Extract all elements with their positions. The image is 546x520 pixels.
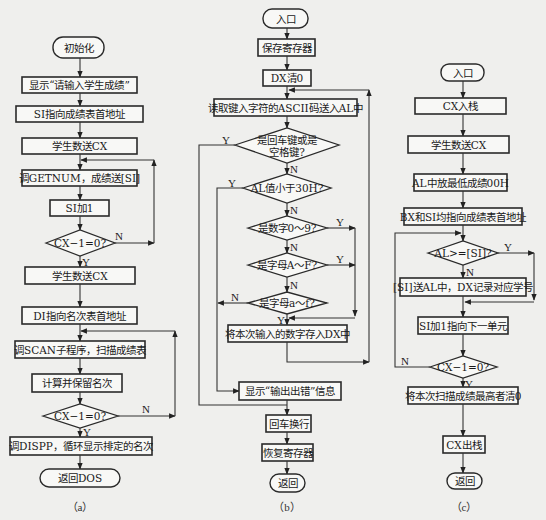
caption-c: （c） (451, 501, 478, 513)
terminal-entry: 入口 (441, 64, 484, 81)
node-text: AL值小于30H? (250, 182, 324, 194)
process-compute-rank: 计算并保留名次 (32, 374, 122, 392)
node-text: CX−1=0? (54, 237, 106, 249)
node-text: DX清0 (271, 72, 304, 84)
branch-label-no: N (115, 230, 123, 242)
node-text: 是回车键或是 (257, 134, 318, 146)
node-text: 读取键入字符的ASCII码送入AL中 (208, 102, 364, 114)
process-show-error: 显示“输出出错”信息 (239, 382, 341, 400)
branch-label-yes: Y (336, 216, 344, 228)
branch-label-no: N (231, 291, 239, 303)
node-text: 是字母a～f? (259, 297, 315, 309)
terminal-return: 返回 (447, 473, 482, 489)
node-text: 显示“请输入学生成绩” (29, 79, 130, 91)
node-text: 返回 (278, 477, 298, 489)
terminal-start: 初始化 (53, 37, 104, 58)
branch-label-no: N (290, 204, 298, 216)
process-count-to-cx-2: 学生数送CX (25, 267, 135, 284)
branch-label-no: N (290, 163, 298, 175)
process-pop-cx: CX出栈 (443, 436, 485, 453)
node-text: 计算并保留名次 (42, 377, 113, 389)
node-text: 调SCAN子程序，扫描成绩表 (14, 344, 147, 356)
caption-b: （b） (273, 501, 301, 513)
terminal-entry: 入口 (263, 9, 308, 28)
process-read-key: 读取键入字符的ASCII码送入AL中 (208, 99, 364, 116)
branch-label-yes: Y (336, 253, 344, 265)
branch-label-yes: Y (228, 177, 236, 189)
process-al-min-score: AL中放最低成绩00H (411, 174, 509, 191)
decision-enter-or-space: 是回车键或是 空格键? (235, 128, 339, 163)
node-text: 是字母A～F? (257, 259, 318, 271)
node-text: CX−1=0? (54, 410, 106, 422)
edge-yes-error (217, 188, 243, 391)
decision-cx-zero: CX−1=0? (430, 356, 497, 378)
node-text: CX入栈 (443, 100, 480, 112)
branch-label-yes: Y (504, 241, 512, 253)
flowchart-figure: 初始化 显示“请输入学生成绩” SI指向成绩表首地址 学生数送CX 调GETNU… (0, 0, 546, 520)
branch-label-yes: Y (222, 134, 230, 146)
decision-cx-zero-2: CX−1=0? (43, 404, 118, 428)
node-text: 入口 (453, 67, 473, 79)
process-count-to-cx: 学生数送CX (408, 136, 509, 153)
process-push-cx: CX入栈 (415, 98, 506, 114)
node-text: 将本次扫描成绩最高者清0 (405, 390, 522, 402)
process-show-prompt: 显示“请输入学生成绩” (22, 77, 137, 93)
caption-a: （a） (67, 501, 94, 513)
node-text: 恢复寄存器 (263, 447, 314, 459)
node-text: 学生数送CX (431, 139, 487, 151)
terminal-return-dos: 返回DOS (40, 469, 120, 487)
node-text: 回车换行 (269, 418, 310, 430)
process-bx-si-point-table: BX和SI均指向成绩表首地址 (400, 208, 528, 225)
decision-is-lower-hex: 是字母a～f? (248, 292, 327, 314)
decision-is-digit: 是数字0～9? (248, 216, 327, 240)
node-text: SI加1指向下一单元 (419, 320, 508, 332)
node-text: 调DISPP，循环显示排定的名次 (9, 440, 154, 452)
node-text: 学生数送CX (52, 140, 108, 152)
node-text: 显示“输出出错”信息 (245, 385, 336, 397)
process-clear-dx: DX清0 (263, 70, 311, 86)
process-si-inc: SI加1 (50, 200, 109, 216)
process-count-to-cx: 学生数送CX (22, 138, 137, 154)
flowchart-b: 入口 保存寄存器 DX清0 读取键入字符的ASCII码送入AL中 是回车键或是 … (199, 9, 369, 513)
terminal-return: 返回 (270, 474, 305, 492)
process-call-dispp: 调DISPP，循环显示排定的名次 (9, 437, 154, 455)
process-save-registers: 保存寄存器 (258, 39, 315, 56)
node-text: 空格键? (269, 146, 305, 158)
process-clear-highest: 将本次扫描成绩最高者清0 (405, 387, 522, 404)
process-call-getnum: 调GETNUM，成绩送[SI] (19, 170, 140, 186)
node-text: 初始化 (64, 42, 95, 54)
node-text: AL中放最低成绩00H (411, 177, 509, 189)
node-text: 是数字0～9? (258, 222, 317, 234)
node-text: 入口 (276, 13, 296, 25)
node-text: 保存寄存器 (262, 42, 313, 54)
node-text: BX和SI均指向成绩表首地址 (400, 211, 528, 223)
process-di-point-rank: DI指向名次表首地址 (22, 307, 137, 324)
node-text: CX−1=0? (437, 361, 489, 373)
process-newline: 回车换行 (266, 415, 311, 432)
node-text: SI指向成绩表首地址 (34, 108, 126, 120)
flowchart-a: 初始化 显示“请输入学生成绩” SI指向成绩表首地址 学生数送CX 调GETNU… (9, 37, 175, 513)
node-text: 将本次输入的数字存入DX中 (225, 328, 351, 340)
process-restore-registers: 恢复寄存器 (262, 444, 314, 461)
branch-label-no: N (401, 355, 409, 367)
node-text: 返回DOS (58, 472, 102, 484)
flowchart-c: 入口 CX入栈 学生数送CX AL中放最低成绩00H BX和SI均指向成绩表首地… (393, 64, 534, 513)
process-store-digit-dx: 将本次输入的数字存入DX中 (225, 325, 351, 342)
decision-al-ge-si: AL>=[SI]? (428, 241, 498, 265)
process-si-to-al: [SI]送AL中，DX记录对应学号 (393, 278, 533, 296)
process-si-next: SI加1指向下一单元 (418, 317, 508, 334)
node-text: [SI]送AL中，DX记录对应学号 (393, 281, 533, 293)
node-text: AL>=[SI]? (433, 247, 492, 259)
branch-label-no: N (142, 403, 150, 415)
node-text: SI加1 (65, 202, 93, 214)
node-text: CX出栈 (446, 439, 483, 451)
decision-cx-zero-1: CX−1=0? (46, 230, 115, 256)
branch-label-no: N (466, 266, 474, 278)
node-text: 学生数送CX (52, 270, 108, 282)
decision-is-upper-hex: 是字母A～F? (248, 253, 327, 277)
node-text: DI指向名次表首地址 (33, 310, 127, 322)
node-text: 返回 (455, 475, 475, 487)
branch-label-no: N (290, 241, 298, 253)
process-call-scan: 调SCAN子程序，扫描成绩表 (14, 341, 147, 358)
edge-loop-back (287, 342, 369, 362)
